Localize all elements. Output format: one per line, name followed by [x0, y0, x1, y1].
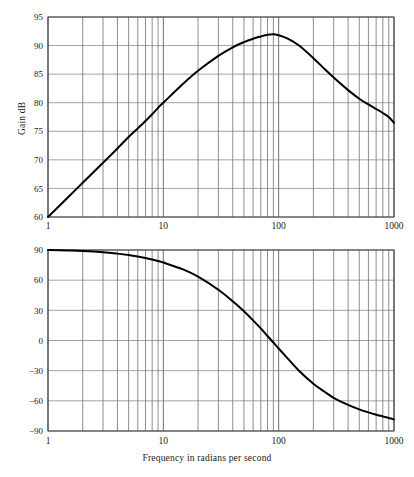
phase-curve [48, 250, 394, 419]
svg-text:−90: −90 [29, 426, 44, 436]
svg-text:−60: −60 [29, 396, 44, 406]
phase-plot-panel: Phase in degrees −90−60−3003060901101001… [0, 232, 414, 477]
svg-text:70: 70 [34, 155, 44, 165]
gain-gridlines [48, 17, 394, 217]
svg-text:1: 1 [46, 436, 51, 446]
svg-text:95: 95 [34, 12, 44, 22]
svg-text:90: 90 [34, 41, 44, 51]
gain-y-axis-title: Gain dB [17, 102, 27, 135]
phase-tick-labels: −90−60−3003060901101001000 [29, 245, 404, 446]
svg-text:1: 1 [46, 221, 51, 231]
svg-text:90: 90 [34, 245, 44, 255]
bode-plot-figure: Gain dB 60657075808590951101001000 Phase… [0, 0, 414, 477]
svg-text:100: 100 [272, 436, 287, 446]
svg-text:60: 60 [34, 275, 44, 285]
svg-text:30: 30 [34, 306, 44, 316]
svg-text:−30: −30 [29, 366, 44, 376]
svg-text:100: 100 [272, 221, 287, 231]
gain-curve [48, 34, 394, 217]
gain-plot-svg: 60657075808590951101001000 [0, 0, 414, 232]
svg-text:75: 75 [34, 126, 44, 136]
svg-text:65: 65 [34, 184, 44, 194]
svg-text:0: 0 [39, 336, 44, 346]
svg-text:60: 60 [34, 212, 44, 222]
svg-text:10: 10 [159, 436, 169, 446]
gain-plot-panel: Gain dB 60657075808590951101001000 [0, 0, 414, 232]
phase-gridlines [48, 250, 394, 431]
svg-text:10: 10 [159, 221, 169, 231]
svg-text:80: 80 [34, 98, 44, 108]
svg-text:85: 85 [34, 69, 44, 79]
svg-text:1000: 1000 [385, 221, 404, 231]
svg-text:1000: 1000 [385, 436, 404, 446]
phase-plot-svg: −90−60−3003060901101001000 [0, 232, 414, 452]
frequency-x-axis-title: Frequency in radians per second [0, 453, 414, 463]
gain-frame [48, 17, 394, 217]
